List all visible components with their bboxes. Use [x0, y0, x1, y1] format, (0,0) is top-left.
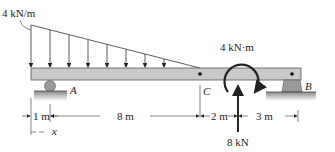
dim-8m: 8 m — [117, 110, 134, 122]
distributed-load — [20, 20, 200, 68]
dim-1m: 1 m — [33, 110, 50, 122]
moment-label: 4 kN·m — [220, 41, 254, 53]
dim-3m: 3 m — [256, 110, 273, 122]
beam — [31, 68, 301, 80]
point-b-marker — [290, 72, 294, 76]
distributed-load-label: 4 kN/m — [2, 7, 36, 19]
force-label: 8 kN — [227, 136, 249, 148]
support-a-label: A — [69, 84, 77, 96]
dim-2m: 2 m — [211, 110, 228, 122]
support-a-roller — [34, 81, 67, 102]
support-b-label: B — [305, 80, 312, 92]
point-c-label: C — [203, 85, 211, 97]
point-c-marker — [198, 72, 202, 76]
x-coordinate-label: x — [51, 125, 57, 137]
beam-diagram: 4 kN/m A B C 4 kN·m 8 kN — [0, 0, 335, 152]
